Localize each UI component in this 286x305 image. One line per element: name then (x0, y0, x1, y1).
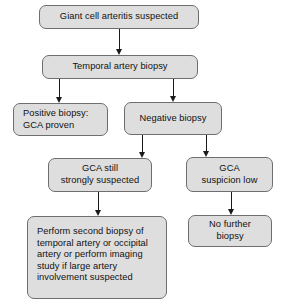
connector-line (206, 135, 207, 152)
connector-line (231, 192, 232, 210)
connector-line (59, 79, 60, 98)
connector-line (173, 79, 174, 97)
flowchart-node-gca-still-strongly-suspected: GCA still strongly suspected (48, 158, 152, 192)
flowchart-node-no-further-biopsy: No further biopsy (188, 215, 272, 247)
flowchart-canvas: Giant cell arteritis suspectedTemporal a… (0, 0, 286, 305)
connector-line (119, 29, 120, 50)
flowchart-node-gca-suspected: Giant cell arteritis suspected (39, 5, 199, 29)
flowchart-node-gca-suspicion-low: GCA suspicion low (186, 157, 273, 192)
flowchart-node-negative-biopsy: Negative biopsy (124, 102, 222, 135)
flowchart-node-positive-biopsy: Positive biopsy: GCA proven (13, 103, 108, 136)
connector-line (142, 135, 143, 153)
connector-line (98, 192, 99, 211)
flowchart-node-temporal-artery-biopsy: Temporal artery biopsy (42, 55, 198, 79)
flowchart-node-perform-second-biopsy: Perform second biopsy of temporal artery… (27, 216, 167, 299)
